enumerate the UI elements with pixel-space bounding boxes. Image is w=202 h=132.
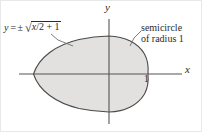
radicand-constant: + 1 bbox=[46, 21, 59, 32]
equation-plus-minus-sign: ± bbox=[18, 23, 24, 34]
figure-canvas: y x 1 y = ± √ x/2 + 1 semicircle of radi… bbox=[0, 0, 202, 132]
equation-radical: √ x/2 + 1 bbox=[25, 21, 60, 33]
equation-annotation: y = ± √ x/2 + 1 bbox=[4, 21, 61, 34]
x-tick-label-1: 1 bbox=[144, 75, 149, 85]
equation-leader-line bbox=[51, 34, 73, 46]
radicand-denominator: /2 bbox=[36, 21, 44, 32]
equation-relation: = bbox=[10, 23, 16, 34]
equation-radicand: x/2 + 1 bbox=[31, 21, 61, 33]
semicircle-annotation: semicircle of radius 1 bbox=[141, 23, 184, 44]
equation-lhs: y bbox=[4, 23, 8, 34]
y-axis-label: y bbox=[105, 2, 110, 14]
semicircle-annotation-line1: semicircle bbox=[141, 23, 184, 34]
x-axis-label: x bbox=[185, 64, 190, 76]
semicircle-annotation-line2: of radius 1 bbox=[141, 34, 184, 45]
